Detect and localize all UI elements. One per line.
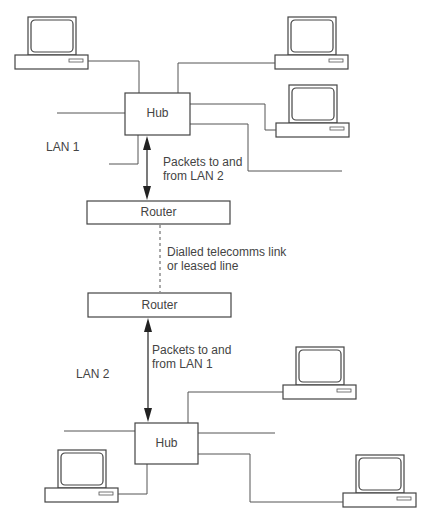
lan2-hub-label: Hub bbox=[135, 436, 198, 451]
lan1-arrow-label-line2: from LAN 2 bbox=[163, 169, 224, 184]
link-label-line2: or leased line bbox=[167, 259, 238, 274]
router-bottom-label: Router bbox=[88, 298, 231, 313]
lan2-computer-bottom-left bbox=[45, 450, 118, 502]
lan2-computer-bottom-right bbox=[343, 455, 416, 507]
lan2-computer-top-right bbox=[283, 347, 356, 399]
lan2-arrow-label-line2: from LAN 1 bbox=[152, 357, 213, 372]
lan2-label: LAN 2 bbox=[76, 367, 109, 382]
lan2-router-arrow bbox=[144, 318, 152, 422]
lan1-computer-middle-right bbox=[276, 85, 349, 137]
lan1-computer-top-left bbox=[15, 17, 88, 69]
lan2-arrow-label-line1: Packets to and bbox=[152, 343, 231, 358]
lan1-computer-top-right bbox=[275, 17, 348, 69]
link-label-line1: Dialled telecomms link bbox=[167, 245, 286, 260]
lan1-label: LAN 1 bbox=[46, 140, 79, 155]
lan1-arrow-label-line1: Packets to and bbox=[163, 155, 242, 170]
router-top-label: Router bbox=[87, 205, 230, 220]
lan1-hub-label: Hub bbox=[125, 106, 190, 121]
lan1-router-arrow bbox=[143, 136, 151, 200]
